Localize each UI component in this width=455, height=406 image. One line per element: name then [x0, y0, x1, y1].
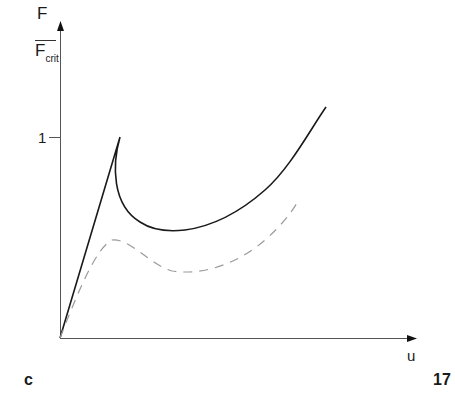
y-axis-label-numerator: F — [37, 4, 47, 24]
dashed-curve — [60, 201, 298, 338]
y-axis-label-denominator: Fcrit — [35, 41, 59, 61]
x-axis-label: u — [407, 347, 415, 364]
denominator-subscript: crit — [45, 53, 58, 64]
page-number: 17 — [433, 371, 451, 389]
denominator-symbol: F — [35, 41, 45, 60]
solid-curve — [60, 107, 326, 338]
panel-label: c — [24, 371, 33, 389]
chart-canvas — [0, 0, 455, 406]
y-tick-label: 1 — [38, 129, 46, 146]
